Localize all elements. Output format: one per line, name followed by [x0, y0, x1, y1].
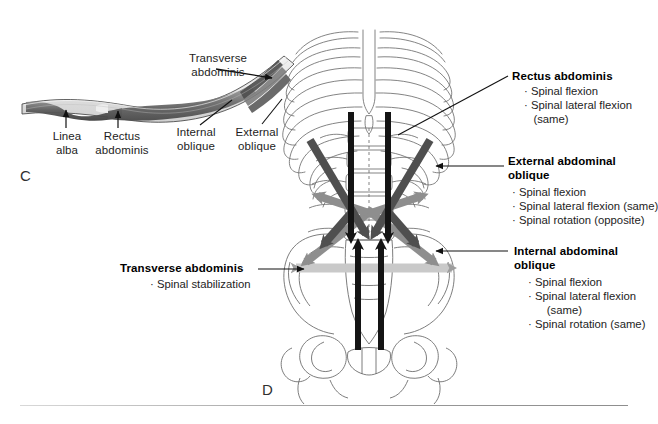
callout-action-internal-4: · Spinal rotation (same) — [528, 318, 645, 332]
callout-title-external-abdominal-oblique: External abdominal oblique — [508, 155, 616, 183]
callout-title-internal-abdominal-oblique: Internal abdominal oblique — [514, 245, 618, 273]
callout-action-external-3: · Spinal rotation (opposite) — [512, 214, 645, 228]
callout-action-transverse-1: · Spinal stabilization — [150, 278, 250, 292]
callout-action-external-2: · Spinal lateral flexion (same) — [512, 200, 658, 214]
panel-letter-d: D — [262, 382, 273, 398]
lumbar-spine-outline — [308, 128, 430, 240]
callout-action-rectus-1: · Spinal flexion — [524, 85, 598, 99]
callout-action-internal-2: · Spinal lateral flexion — [528, 290, 636, 304]
callout-action-external-1: · Spinal flexion — [512, 186, 586, 200]
bottom-divider-rule — [20, 405, 628, 406]
callout-action-internal-3: (same) — [528, 304, 582, 318]
arrow-rectus-abdominis — [351, 112, 388, 350]
callout-action-rectus-2: · Spinal lateral flexion — [524, 99, 632, 113]
callout-title-rectus-abdominis: Rectus abdominis — [512, 70, 613, 84]
callout-action-internal-1: · Spinal flexion — [528, 276, 602, 290]
callout-action-rectus-3: (same) — [524, 113, 569, 127]
callout-title-transverse-abdominis: Transverse abdominis — [120, 262, 254, 276]
